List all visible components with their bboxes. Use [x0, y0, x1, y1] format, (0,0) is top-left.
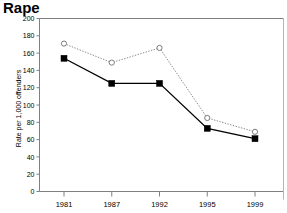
- data-point-marker[interactable]: [157, 80, 163, 86]
- plot-area: 020406080100120140160180200 198119871992…: [0, 0, 287, 213]
- chart-figure: Rape Rate per 1,000 offenders 0204060801…: [0, 0, 287, 213]
- data-series-group: [61, 41, 258, 142]
- data-point-marker[interactable]: [204, 125, 210, 131]
- y-axis: 020406080100120140160180200: [23, 15, 40, 195]
- data-point-marker[interactable]: [109, 60, 114, 65]
- y-tick-label: 180: [23, 32, 35, 39]
- series-line-lower-solid-series: [64, 58, 255, 138]
- data-point-marker[interactable]: [109, 80, 115, 86]
- y-tick-label: 20: [27, 171, 35, 178]
- data-point-marker[interactable]: [252, 136, 258, 142]
- y-tick-label: 0: [31, 188, 35, 195]
- data-point-marker[interactable]: [157, 45, 162, 50]
- y-tick-label: 60: [27, 136, 35, 143]
- series-line-upper-dotted-series: [64, 44, 255, 132]
- y-tick-label: 120: [23, 84, 35, 91]
- data-point-marker[interactable]: [61, 41, 66, 46]
- y-tick-label: 160: [23, 50, 35, 57]
- y-tick-label: 80: [27, 119, 35, 126]
- y-tick-label: 200: [23, 15, 35, 22]
- x-tick-label: 1987: [103, 200, 120, 209]
- x-tick-label: 1999: [247, 200, 264, 209]
- data-point-marker[interactable]: [61, 55, 67, 61]
- data-point-marker[interactable]: [252, 129, 257, 134]
- data-point-marker[interactable]: [205, 115, 210, 120]
- y-tick-label: 100: [23, 102, 35, 109]
- y-tick-label: 40: [27, 154, 35, 161]
- x-tick-label: 1995: [199, 200, 216, 209]
- x-tick-label: 1992: [151, 200, 168, 209]
- y-tick-label: 140: [23, 67, 35, 74]
- x-tick-label: 1981: [56, 200, 73, 209]
